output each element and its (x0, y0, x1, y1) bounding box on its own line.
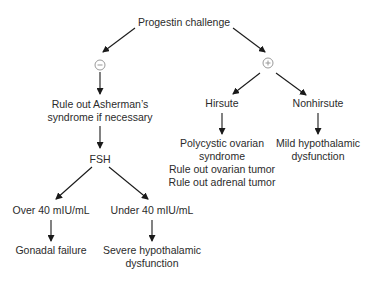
node-progestin-challenge: Progestin challenge (138, 16, 230, 29)
node-line: syndrome (169, 150, 276, 163)
arrow-fsh-to-under40 (109, 167, 148, 199)
node-line: Polycystic ovarian (169, 137, 276, 150)
node-rule-out-asherman: Rule out Asherman’s syndrome if necessar… (47, 98, 152, 124)
node-line: syndrome if necessary (47, 111, 152, 124)
arrow-root-to-negative (103, 28, 135, 52)
node-line: Rule out Asherman’s (47, 98, 152, 111)
node-label: Under 40 mIU/mL (111, 204, 194, 217)
node-over-40: Over 40 mIU/mL (12, 204, 89, 217)
arrow-positive-to-nonhirsute (276, 73, 306, 95)
node-label: Nonhirsute (293, 97, 344, 110)
node-under-40: Under 40 mIU/mL (111, 204, 194, 217)
node-gonadal-failure: Gonadal failure (15, 244, 86, 257)
node-nonhirsute: Nonhirsute (293, 97, 344, 110)
arrow-fsh-to-over40 (56, 167, 92, 199)
arrow-root-to-positive (233, 28, 265, 52)
node-line: Mild hypothalamic (276, 137, 360, 150)
positive-result-icon (263, 58, 274, 69)
negative-result-icon (95, 60, 106, 71)
node-line: dysfunction (276, 150, 360, 163)
node-line: Rule out adrenal tumor (169, 176, 276, 189)
node-label: Hirsute (205, 97, 238, 110)
node-line: Gonadal failure (15, 244, 86, 257)
node-severe-hypothalamic: Severe hypothalamic dysfunction (103, 244, 201, 270)
node-label: FSH (90, 153, 111, 166)
arrow-positive-to-hirsute (233, 73, 260, 94)
node-hirsute: Hirsute (205, 97, 238, 110)
node-line: Severe hypothalamic (103, 244, 201, 257)
node-mild-hypothalamic: Mild hypothalamic dysfunction (276, 137, 360, 163)
node-label: Over 40 mIU/mL (12, 204, 89, 217)
node-fsh: FSH (90, 153, 111, 166)
node-polycystic-ovarian: Polycystic ovarian syndrome Rule out ova… (169, 137, 276, 189)
node-label: Progestin challenge (138, 16, 230, 29)
node-line: dysfunction (103, 257, 201, 270)
node-line: Rule out ovarian tumor (169, 163, 276, 176)
